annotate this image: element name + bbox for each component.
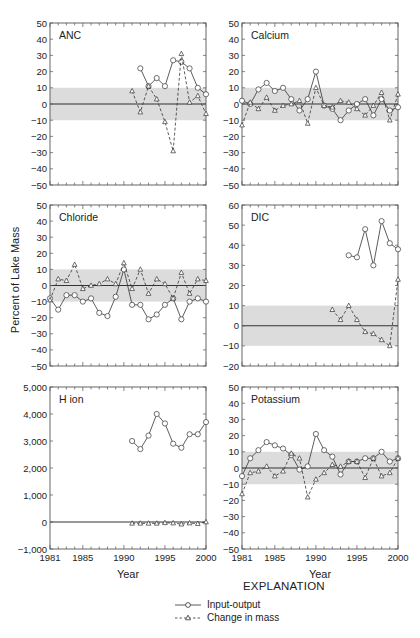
- circle-marker: [162, 84, 167, 89]
- y-tick-label: 50: [228, 382, 239, 393]
- panel-dic: 6050403020100−10−20DIC: [223, 200, 401, 372]
- panel-title: ANC: [59, 29, 82, 41]
- circle-marker: [379, 219, 384, 224]
- circle-marker: [297, 108, 302, 113]
- y-tick-label: 60: [228, 200, 239, 211]
- panel-title: Calcium: [251, 29, 289, 41]
- circle-marker: [256, 448, 261, 453]
- x-axis-label-left: Year: [117, 568, 140, 580]
- triangle-marker: [346, 303, 351, 307]
- circle-marker: [371, 263, 376, 268]
- y-tick-label: −30: [31, 328, 47, 339]
- x-axis-label-right: Year: [309, 568, 332, 580]
- solid-line-circle-marker-icon: [175, 601, 201, 609]
- circle-marker: [138, 447, 143, 452]
- circle-marker: [239, 474, 244, 479]
- triangle-marker: [138, 267, 143, 271]
- panel-title: Potassium: [251, 393, 300, 405]
- panel-title: DIC: [251, 211, 270, 223]
- circle-marker: [130, 302, 135, 307]
- y-tick-label: 50: [36, 200, 47, 211]
- y-tick-label: 0: [42, 517, 47, 528]
- y-tick-label: 10: [228, 300, 239, 311]
- circle-marker: [387, 459, 392, 464]
- circle-marker: [154, 411, 159, 416]
- circle-marker: [305, 97, 310, 102]
- circle-marker: [187, 299, 192, 304]
- circle-marker: [154, 312, 159, 317]
- circle-marker: [105, 313, 110, 318]
- y-tick-label: 1,000: [23, 490, 47, 501]
- y-tick-label: −20: [31, 131, 47, 142]
- y-tick-label: 0: [234, 320, 239, 331]
- legend-label: Change in mass: [207, 612, 279, 623]
- y-tick-label: −20: [223, 131, 239, 142]
- triangle-marker: [179, 51, 184, 55]
- series-input-output: [132, 414, 206, 449]
- y-tick-label: 20: [228, 430, 239, 441]
- circle-marker: [379, 449, 384, 454]
- y-tick-label: −20: [223, 361, 239, 372]
- y-tick-label: 0: [234, 99, 239, 110]
- y-tick-label: 0: [42, 99, 47, 110]
- figure-canvas: 50403020100−10−20−30−40−50ANC50403020100…: [0, 0, 420, 580]
- circle-marker: [56, 307, 61, 312]
- x-tick-label: 1985: [264, 552, 285, 563]
- x-tick-label: 2000: [195, 552, 216, 563]
- y-tick-label: −30: [223, 511, 239, 522]
- circle-marker: [162, 421, 167, 426]
- y-tick-label: 40: [36, 34, 47, 45]
- y-tick-label: −10: [223, 340, 239, 351]
- triangle-marker: [72, 262, 77, 266]
- circle-marker: [354, 255, 359, 260]
- y-tick-label: 20: [36, 66, 47, 77]
- y-tick-label: −50: [31, 361, 47, 372]
- y-tick-label: 0: [234, 463, 239, 474]
- circle-marker: [154, 75, 159, 80]
- y-tick-label: −30: [223, 147, 239, 158]
- circle-marker: [171, 58, 176, 63]
- circle-marker: [130, 438, 135, 443]
- circle-marker: [239, 98, 244, 103]
- legend-title: EXPLANATION: [243, 580, 325, 592]
- x-tick-label: 2000: [387, 552, 408, 563]
- panel-chloride: 50403020100−10−20−30−40−50Chloride: [31, 200, 209, 372]
- y-tick-label: 2,000: [23, 463, 47, 474]
- circle-marker: [203, 92, 208, 97]
- circle-marker: [330, 454, 335, 459]
- y-tick-label: 3,000: [23, 436, 47, 447]
- circle-marker: [138, 66, 143, 71]
- y-tick-label: −20: [31, 312, 47, 323]
- circle-marker: [64, 293, 69, 298]
- circle-marker: [363, 227, 368, 232]
- circle-marker: [97, 310, 102, 315]
- dashed-line-triangle-marker-icon: [175, 614, 201, 622]
- triangle-marker: [171, 148, 176, 152]
- circle-marker: [146, 433, 151, 438]
- circle-marker: [88, 296, 93, 301]
- triangle-marker: [305, 495, 310, 499]
- circle-marker: [363, 97, 368, 102]
- y-tick-label: 50: [228, 18, 239, 29]
- triangle-marker: [122, 260, 127, 264]
- legend-item-input-output: Input-output: [175, 599, 260, 610]
- circle-marker: [203, 420, 208, 425]
- circle-marker: [371, 113, 376, 118]
- circle-marker: [113, 294, 118, 299]
- y-tick-label: 30: [228, 414, 239, 425]
- circle-marker: [248, 456, 253, 461]
- circle-marker: [195, 432, 200, 437]
- circle-marker: [313, 69, 318, 74]
- circle-marker: [346, 108, 351, 113]
- y-tick-label: −10: [31, 296, 47, 307]
- triangle-marker: [171, 520, 176, 524]
- triangle-marker: [240, 122, 245, 126]
- circle-marker: [379, 97, 384, 102]
- circle-marker: [395, 105, 400, 110]
- circle-marker: [322, 448, 327, 453]
- y-tick-label: −10: [223, 115, 239, 126]
- circle-marker: [387, 241, 392, 246]
- circle-marker: [346, 253, 351, 258]
- y-tick-label: 30: [36, 232, 47, 243]
- circle-marker: [72, 293, 77, 298]
